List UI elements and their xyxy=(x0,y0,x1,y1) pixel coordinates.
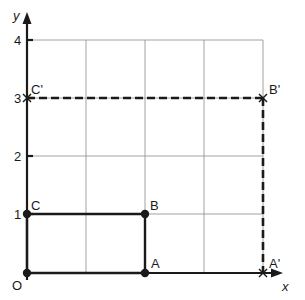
point-c xyxy=(23,210,31,218)
axes xyxy=(23,12,284,280)
label-c-prime: C' xyxy=(31,82,43,97)
y-axis-arrow-icon xyxy=(23,12,32,24)
label-o: O xyxy=(12,278,22,293)
point-b xyxy=(141,210,149,218)
x-axis-label: x xyxy=(281,279,289,294)
y-tick-label-3: 3 xyxy=(14,91,21,106)
y-tick-label-2: 2 xyxy=(14,149,21,164)
coordinate-diagram: 1 2 3 4 y x O A B C A' B' C' xyxy=(0,0,305,300)
point-o xyxy=(23,269,31,277)
y-tick-label-1: 1 xyxy=(14,207,21,222)
label-a-prime: A' xyxy=(269,256,280,271)
label-a: A xyxy=(151,256,160,271)
label-c: C xyxy=(31,198,40,213)
y-tick-label-4: 4 xyxy=(14,33,21,48)
label-b-prime: B' xyxy=(269,82,280,97)
point-a xyxy=(141,269,149,277)
label-b: B xyxy=(150,198,159,213)
y-axis-label: y xyxy=(12,8,21,23)
